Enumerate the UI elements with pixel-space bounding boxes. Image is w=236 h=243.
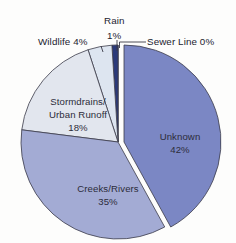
- label-stormdrains-line2: Urban Runoff: [49, 109, 107, 120]
- label-creeks-name: Creeks/Rivers: [77, 183, 139, 194]
- label-unknown-value: 42%: [170, 144, 190, 155]
- label-unknown-name: Unknown: [160, 131, 201, 142]
- label-rain-value: 1%: [107, 30, 122, 41]
- label-rain-name: Rain: [104, 15, 125, 26]
- label-sewer-line: Sewer Line 0%: [147, 36, 214, 47]
- label-creeks-value: 35%: [98, 196, 118, 207]
- label-wildlife: Wildlife 4%: [38, 36, 88, 47]
- label-stormdrains-value: 18%: [68, 122, 88, 133]
- pie-chart-svg: Wildlife 4% Rain 1% Sewer Line 0% Stormd…: [0, 0, 236, 243]
- label-stormdrains-line1: Stormdrains/: [50, 96, 106, 107]
- pie-chart-container: Wildlife 4% Rain 1% Sewer Line 0% Stormd…: [0, 0, 236, 243]
